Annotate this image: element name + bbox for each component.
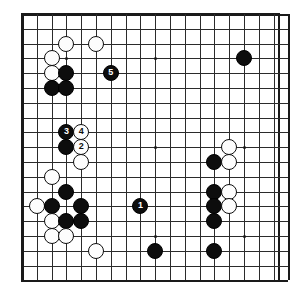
stone-white[interactable] <box>58 228 74 244</box>
stone-move-number: 5 <box>108 68 113 77</box>
star-point <box>154 146 157 149</box>
grid-line-vertical <box>111 14 112 280</box>
stone-black[interactable] <box>44 198 60 214</box>
stone-black[interactable] <box>73 198 89 214</box>
go-board[interactable]: 53421 <box>22 14 288 280</box>
grid-line-vertical <box>126 14 127 280</box>
stone-white[interactable] <box>88 36 104 52</box>
stone-white[interactable] <box>44 169 60 185</box>
stone-white[interactable] <box>58 36 74 52</box>
stone-white[interactable] <box>44 213 60 229</box>
stone-black[interactable] <box>73 213 89 229</box>
grid-line-vertical <box>200 14 201 280</box>
stone-white[interactable] <box>221 184 237 200</box>
stone-move-number: 2 <box>79 142 84 151</box>
grid-line-vertical <box>140 14 141 280</box>
grid-line-vertical <box>259 14 260 280</box>
go-diagram: 53421 <box>0 0 295 301</box>
grid-line-vertical <box>37 14 38 280</box>
stone-white[interactable] <box>44 228 60 244</box>
stone-white-move-2[interactable]: 2 <box>73 139 89 155</box>
stone-white[interactable] <box>44 65 60 81</box>
grid-line-vertical <box>185 14 186 280</box>
stone-black[interactable] <box>206 184 222 200</box>
grid-line-vertical <box>22 14 24 280</box>
stone-white[interactable] <box>221 198 237 214</box>
stone-black[interactable] <box>44 80 60 96</box>
stone-white[interactable] <box>29 198 45 214</box>
stone-move-number: 4 <box>79 127 84 136</box>
stone-black[interactable] <box>58 184 74 200</box>
stone-black[interactable] <box>58 213 74 229</box>
stone-black[interactable] <box>206 154 222 170</box>
grid-line-vertical <box>170 14 171 280</box>
stone-black[interactable] <box>206 213 222 229</box>
grid-line-vertical <box>274 14 275 280</box>
star-point <box>154 235 157 238</box>
stone-black[interactable] <box>206 243 222 259</box>
stone-white[interactable] <box>44 50 60 66</box>
stone-white[interactable] <box>221 154 237 170</box>
stone-white[interactable] <box>73 154 89 170</box>
stone-move-number: 1 <box>138 201 143 210</box>
star-point <box>65 57 68 60</box>
stone-black-move-3[interactable]: 3 <box>58 124 74 140</box>
stone-white[interactable] <box>88 243 104 259</box>
stone-black[interactable] <box>58 80 74 96</box>
grid-line-vertical <box>214 14 215 280</box>
star-point <box>243 146 246 149</box>
stone-move-number: 3 <box>64 127 69 136</box>
stone-white[interactable] <box>221 139 237 155</box>
stone-black[interactable] <box>58 139 74 155</box>
stone-white-move-4[interactable]: 4 <box>73 124 89 140</box>
stone-black[interactable] <box>147 243 163 259</box>
stone-black[interactable] <box>236 50 252 66</box>
stone-black-move-5[interactable]: 5 <box>103 65 119 81</box>
stone-black[interactable] <box>58 65 74 81</box>
stone-black[interactable] <box>206 198 222 214</box>
grid-line-vertical <box>96 14 97 280</box>
grid-line-vertical <box>288 14 290 280</box>
stone-black-move-1[interactable]: 1 <box>132 198 148 214</box>
star-point <box>154 57 157 60</box>
star-point <box>243 235 246 238</box>
